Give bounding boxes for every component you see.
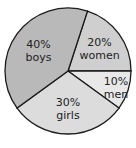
slice-percent-label-women: 20%	[87, 36, 111, 49]
slice-percent-label-boys: 40%	[26, 38, 50, 51]
slice-percent-label-girls: 30%	[56, 96, 80, 109]
slice-category-label-girls: girls	[56, 109, 80, 122]
slice-percent-label-men: 10%	[104, 75, 128, 88]
slice-category-label-women: women	[80, 49, 120, 62]
pie-chart: 20%women10%men30%girls40%boys	[0, 0, 136, 148]
slice-category-label-men: men	[104, 88, 128, 101]
slice-category-label-boys: boys	[25, 51, 51, 64]
